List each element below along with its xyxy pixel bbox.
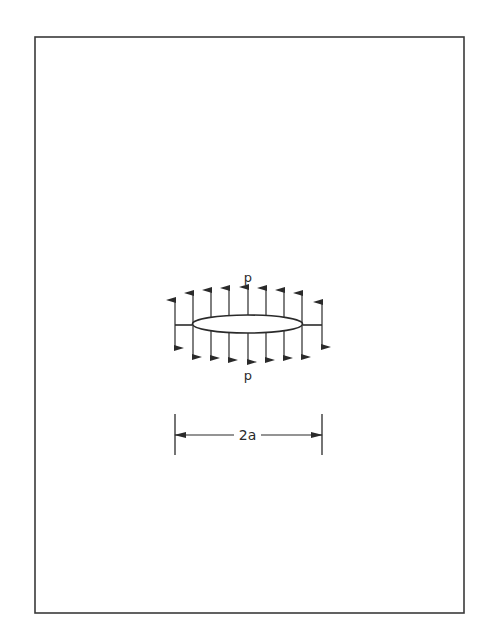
crack-ellipse [193, 315, 303, 333]
crack-diagram: p p 2a [0, 0, 489, 642]
crack-length-label: 2a [239, 427, 257, 443]
dimension-line-2a: 2a [175, 414, 322, 455]
pressure-label-top: p [244, 270, 252, 285]
pressure-label-bottom: p [244, 368, 252, 383]
